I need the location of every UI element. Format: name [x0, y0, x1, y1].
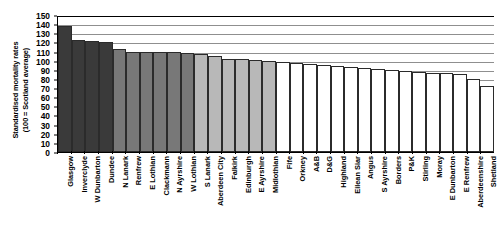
x-tick-mark — [235, 151, 236, 154]
bar-e-ayrshire[interactable] — [249, 60, 263, 152]
x-tick-mark — [262, 151, 263, 154]
bar-highland[interactable] — [331, 66, 345, 152]
bar-fife[interactable] — [276, 62, 290, 152]
x-tick-mark — [316, 151, 317, 154]
bar-orkney[interactable] — [290, 63, 304, 152]
x-slot: W Dunbarton — [84, 154, 98, 248]
x-slot: S Lanark — [194, 154, 208, 248]
x-slot: D&G — [316, 154, 330, 248]
bar-slot — [303, 16, 317, 152]
y-axis-tick-labels: 1501401301201101009080706050403020100 — [28, 16, 54, 153]
bar-a-b[interactable] — [303, 64, 317, 152]
bar-inverclyde[interactable] — [72, 40, 86, 152]
bar-slot — [399, 16, 413, 152]
bar-p-k[interactable] — [399, 71, 413, 152]
x-tick-mark — [153, 151, 154, 154]
x-tick-mark — [207, 151, 208, 154]
y-axis-title-line-1: Standardised mortality rates — [11, 15, 21, 165]
x-slot: N Lanark — [112, 154, 126, 248]
bar-s-lanark[interactable] — [194, 54, 208, 152]
bar-slot — [167, 16, 181, 152]
x-slot: Eilean Siar — [344, 154, 358, 248]
bar-slot — [385, 16, 399, 152]
x-tick-mark — [398, 151, 399, 154]
x-tick-mark — [194, 151, 195, 154]
x-slot: A&B — [303, 154, 317, 248]
bar-slot — [317, 16, 331, 152]
mortality-rates-bar-chart: Standardised mortality rates (100 = Scot… — [0, 0, 499, 250]
x-tick-mark — [344, 151, 345, 154]
bar-w-dunbarton[interactable] — [85, 41, 99, 152]
bar-slot — [344, 16, 358, 152]
bar-slot — [126, 16, 140, 152]
x-slot: Fife — [276, 154, 290, 248]
bar-e-renfrew[interactable] — [453, 74, 467, 152]
bar-slot — [222, 16, 236, 152]
bar-slot — [331, 16, 345, 152]
x-slot: E Dunbarton — [439, 154, 453, 248]
bar-stirling[interactable] — [412, 72, 426, 152]
x-tick-mark — [385, 151, 386, 154]
bar-clackmann[interactable] — [153, 52, 167, 152]
bar-slot — [371, 16, 385, 152]
bar-slot — [249, 16, 263, 152]
x-slot: Dundee — [98, 154, 112, 248]
bar-w-lothian[interactable] — [181, 53, 195, 152]
bar-n-ayrshire[interactable] — [167, 52, 181, 152]
bar-e-dunbarton[interactable] — [440, 73, 454, 152]
x-slot: Orkney — [289, 154, 303, 248]
bar-angus[interactable] — [358, 68, 372, 152]
bar-e-lothian[interactable] — [140, 52, 154, 152]
bar-moray[interactable] — [426, 73, 440, 152]
bar-slot — [467, 16, 481, 152]
x-slot: Stirling — [412, 154, 426, 248]
bar-renfrew[interactable] — [126, 52, 140, 152]
x-tick-mark — [71, 151, 72, 154]
x-tick-mark — [330, 151, 331, 154]
x-slot: E Renfrew — [453, 154, 467, 248]
bar-dundee[interactable] — [99, 42, 113, 152]
bar-slot — [72, 16, 86, 152]
bar-midlothian[interactable] — [262, 61, 276, 152]
x-tick-mark — [180, 151, 181, 154]
x-slot: Aberdeen City — [207, 154, 221, 248]
x-slot: Aberdeenshire — [467, 154, 481, 248]
x-tick-mark — [412, 151, 413, 154]
x-slot: Angus — [357, 154, 371, 248]
x-slot: Shetland — [480, 154, 494, 248]
x-tick-mark — [439, 151, 440, 154]
bar-slot — [181, 16, 195, 152]
bar-slot — [412, 16, 426, 152]
x-slot: S Ayrshire — [371, 154, 385, 248]
bar-aberdeenshire[interactable] — [467, 79, 481, 152]
bar-glasgow[interactable] — [58, 26, 72, 152]
x-slot: W Lothian — [180, 154, 194, 248]
x-slot: Falkirk — [221, 154, 235, 248]
bar-edinburgh[interactable] — [235, 59, 249, 152]
bar-borders[interactable] — [385, 70, 399, 152]
bar-slot — [426, 16, 440, 152]
bar-eilean-siar[interactable] — [344, 67, 358, 152]
x-slot: Edinburgh — [235, 154, 249, 248]
bar-falkirk[interactable] — [222, 59, 236, 152]
bar-shetland[interactable] — [480, 86, 494, 152]
bar-n-lanark[interactable] — [113, 49, 127, 152]
x-tick-mark — [166, 151, 167, 154]
x-tick-mark — [303, 151, 304, 154]
bar-slot — [194, 16, 208, 152]
x-tick-mark — [467, 151, 468, 154]
bar-s-ayrshire[interactable] — [371, 69, 385, 152]
x-tick-mark — [276, 151, 277, 154]
x-slot: E Ayrshire — [248, 154, 262, 248]
x-tick-mark — [57, 151, 58, 154]
bar-slot — [58, 16, 72, 152]
x-tick-label-shetland: Shetland — [490, 156, 498, 187]
x-tick-mark — [139, 151, 140, 154]
x-slot: Clackmann — [153, 154, 167, 248]
x-tick-mark — [289, 151, 290, 154]
bar-d-g[interactable] — [317, 65, 331, 152]
bar-slot — [85, 16, 99, 152]
bar-aberdeen-city[interactable] — [208, 56, 222, 152]
bar-slot — [480, 16, 494, 152]
x-tick-mark — [453, 151, 454, 154]
